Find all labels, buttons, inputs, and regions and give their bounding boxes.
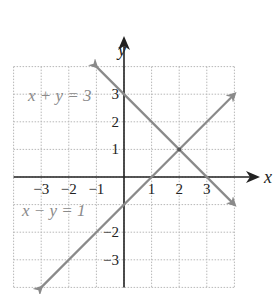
x-axis-label: x	[263, 167, 272, 187]
x-tick-label: 1	[148, 181, 156, 197]
equation-label-x-minus-y: x − y = 1	[21, 201, 86, 220]
y-tick-label: 2	[112, 114, 120, 130]
y-tick-label: −3	[103, 252, 119, 268]
x-tick-label: 2	[175, 181, 183, 197]
axes	[14, 40, 256, 287]
x-tick-label: −2	[61, 181, 77, 197]
x-tick-label: 3	[203, 181, 211, 197]
y-tick-label: 3	[112, 86, 120, 102]
y-tick-label: 1	[112, 141, 120, 157]
y-axis-label: y	[116, 40, 126, 60]
x-tick-label: −1	[88, 181, 104, 197]
intersection-point	[177, 147, 181, 151]
coordinate-plane: −3−2−1123321−2−3 y x x + y = 3 x − y = 1	[0, 0, 277, 294]
x-tick-label: −3	[33, 181, 49, 197]
y-tick-label: −2	[103, 224, 119, 240]
equation-label-x-plus-y: x + y = 3	[27, 86, 92, 105]
